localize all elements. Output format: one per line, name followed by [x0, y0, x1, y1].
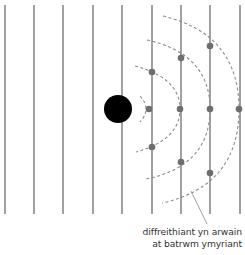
diffraction-label: diffreithiant yn arwain at batrwm ymyria… — [82, 226, 242, 250]
interference-point — [149, 144, 156, 151]
interference-point — [146, 106, 153, 113]
interference-point — [178, 55, 185, 62]
interference-point — [149, 69, 156, 76]
interference-point — [178, 159, 185, 166]
interference-point — [207, 170, 214, 177]
interference-point — [207, 106, 214, 113]
label-line-2: at batrwm ymyriant — [82, 238, 242, 250]
interference-point — [236, 106, 243, 113]
obstacle-disc — [104, 95, 132, 123]
interference-point — [207, 43, 214, 50]
label-line-1: diffreithiant yn arwain — [82, 226, 242, 238]
diffraction-diagram — [0, 0, 245, 255]
interference-point — [177, 106, 184, 113]
